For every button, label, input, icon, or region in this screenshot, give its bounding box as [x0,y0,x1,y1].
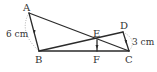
label-d: D [120,20,128,31]
measure-dc: 3 cm [132,37,155,47]
geometry-diagram: A B C D E F 6 cm 3 cm [0,0,157,72]
ef-arrow-icon [96,45,99,49]
segment-ac [29,13,129,51]
label-c: C [125,54,133,65]
label-b: B [35,54,42,65]
label-a: A [22,2,31,13]
measure-ab: 6 cm [6,29,29,39]
segment-bd [39,32,123,51]
label-f: F [93,54,100,65]
label-e: E [93,28,100,39]
